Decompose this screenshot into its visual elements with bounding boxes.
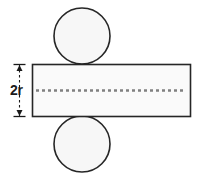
bottom-base-circle (54, 116, 110, 172)
cylinder-net-svg: 2r (0, 0, 206, 183)
top-base-circle (54, 8, 110, 64)
height-dimension-label: 2r (10, 82, 24, 98)
cylinder-net-figure: 2r (0, 0, 206, 183)
